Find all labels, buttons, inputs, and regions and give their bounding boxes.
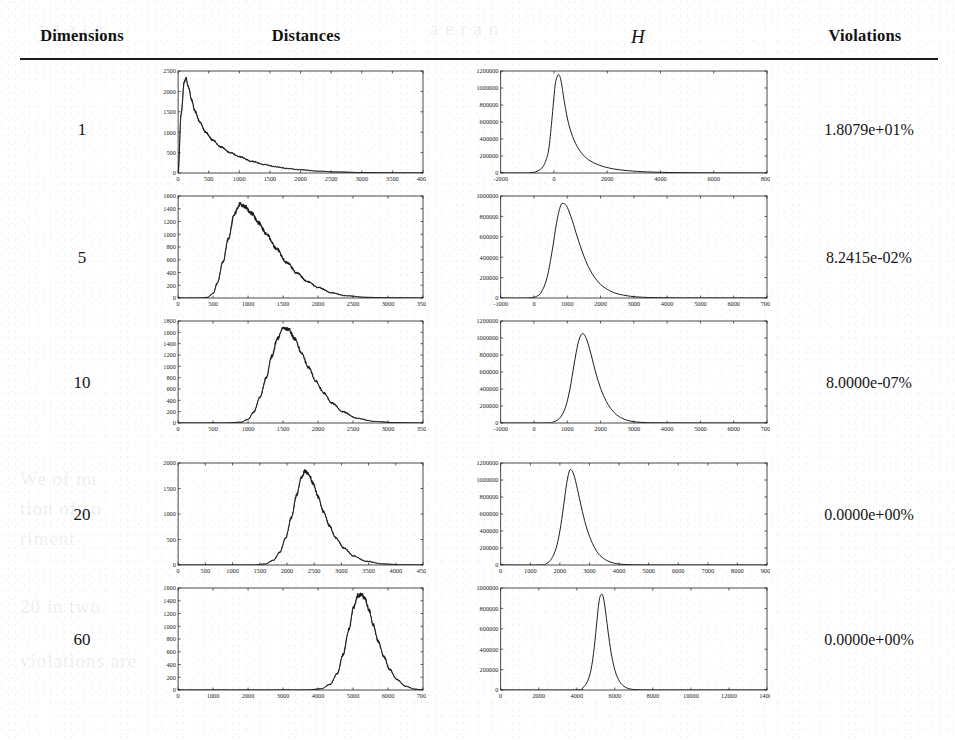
svg-text:2500: 2500	[308, 567, 321, 574]
svg-text:200000: 200000	[480, 402, 499, 409]
dimension-value: 60	[22, 630, 142, 650]
svg-text:8000: 8000	[731, 567, 744, 574]
svg-text:3000: 3000	[628, 425, 641, 432]
svg-text:3000: 3000	[277, 692, 290, 699]
svg-text:6000: 6000	[727, 425, 740, 432]
svg-text:200: 200	[166, 282, 175, 289]
dimension-value: 1	[22, 120, 142, 140]
svg-text:600000: 600000	[480, 118, 499, 125]
svg-text:1200000: 1200000	[476, 67, 498, 74]
svg-text:1000: 1000	[207, 692, 220, 699]
svg-text:1500: 1500	[277, 425, 290, 432]
svg-text:500: 500	[166, 149, 175, 156]
svg-text:1800: 1800	[163, 317, 176, 324]
svg-text:0: 0	[177, 425, 180, 432]
svg-text:2000: 2000	[294, 175, 307, 182]
svg-text:1000000: 1000000	[476, 584, 498, 591]
svg-text:1000: 1000	[242, 300, 255, 307]
svg-text:500: 500	[208, 425, 217, 432]
svg-text:200: 200	[166, 408, 175, 415]
svg-text:7000: 7000	[761, 425, 770, 432]
svg-text:0: 0	[173, 169, 176, 176]
svg-text:6000: 6000	[672, 567, 685, 574]
svg-text:0: 0	[552, 175, 555, 182]
svg-text:200000: 200000	[480, 152, 499, 159]
dimension-value: 20	[22, 505, 142, 525]
svg-text:2000: 2000	[594, 425, 607, 432]
svg-text:3500: 3500	[362, 567, 375, 574]
table-row: 6001000200030004000500060007000020040060…	[0, 583, 955, 708]
svg-text:1000000: 1000000	[476, 334, 498, 341]
svg-text:6000: 6000	[609, 692, 622, 699]
svg-text:200000: 200000	[480, 274, 499, 281]
svg-text:2500: 2500	[347, 300, 360, 307]
svg-text:600000: 600000	[480, 368, 499, 375]
svg-text:600000: 600000	[480, 233, 499, 240]
svg-text:7000: 7000	[761, 300, 770, 307]
svg-text:1600: 1600	[163, 329, 176, 336]
svg-text:1500: 1500	[277, 300, 290, 307]
svg-text:1600: 1600	[163, 584, 176, 591]
svg-text:2000: 2000	[163, 88, 176, 95]
svg-text:500: 500	[208, 300, 217, 307]
svg-text:9000: 9000	[761, 567, 770, 574]
svg-text:600000: 600000	[480, 510, 499, 517]
h-chart: 0200040006000800010000120001400002000004…	[470, 583, 770, 701]
h-chart: -200002000400060008000020000040000060000…	[470, 66, 770, 184]
svg-text:3500: 3500	[386, 175, 399, 182]
svg-text:0: 0	[173, 686, 176, 693]
svg-text:7000: 7000	[417, 692, 426, 699]
svg-text:2000: 2000	[312, 300, 325, 307]
svg-text:6000: 6000	[707, 175, 720, 182]
svg-text:1500: 1500	[163, 485, 176, 492]
svg-text:2000: 2000	[312, 425, 325, 432]
svg-text:2000: 2000	[554, 567, 567, 574]
table-row: 2005001000150020002500300035004000450005…	[0, 458, 955, 583]
svg-text:3000: 3000	[335, 567, 348, 574]
svg-text:1000000: 1000000	[476, 84, 498, 91]
svg-text:0: 0	[495, 561, 498, 568]
distances-chart: 0500100015002000250030003500020040060080…	[158, 316, 426, 434]
svg-text:8000: 8000	[761, 175, 770, 182]
svg-text:3000: 3000	[628, 300, 641, 307]
svg-text:0: 0	[532, 425, 535, 432]
svg-text:1400: 1400	[163, 340, 176, 347]
svg-text:400: 400	[166, 661, 175, 668]
svg-text:1200: 1200	[163, 218, 176, 225]
svg-text:400000: 400000	[480, 135, 499, 142]
svg-text:500: 500	[201, 567, 210, 574]
header-rule	[20, 58, 938, 60]
svg-text:600: 600	[166, 385, 175, 392]
svg-text:800: 800	[166, 635, 175, 642]
svg-text:0: 0	[495, 294, 498, 301]
svg-text:1000: 1000	[524, 567, 537, 574]
table-row: 1005001000150020002500300035000200400600…	[0, 316, 955, 441]
svg-text:1200000: 1200000	[476, 317, 498, 324]
column-header-h: H	[608, 26, 668, 48]
svg-text:1000: 1000	[561, 425, 574, 432]
svg-text:6000: 6000	[727, 300, 740, 307]
svg-text:200: 200	[166, 674, 175, 681]
svg-text:1000: 1000	[163, 231, 176, 238]
svg-text:1500: 1500	[264, 175, 277, 182]
column-header-distances: Distances	[216, 26, 396, 46]
svg-text:1000: 1000	[242, 425, 255, 432]
svg-text:0: 0	[495, 686, 498, 693]
svg-text:4500: 4500	[417, 567, 426, 574]
svg-text:800000: 800000	[480, 493, 499, 500]
svg-text:2500: 2500	[163, 67, 176, 74]
svg-text:14000: 14000	[759, 692, 770, 699]
column-header-violations: Violations	[790, 26, 940, 46]
svg-text:200000: 200000	[480, 666, 499, 673]
svg-text:0: 0	[532, 300, 535, 307]
svg-text:1500: 1500	[253, 567, 266, 574]
svg-text:6000: 6000	[382, 692, 395, 699]
column-header-dimensions: Dimensions	[18, 26, 146, 46]
svg-text:2000: 2000	[281, 567, 294, 574]
svg-text:4000: 4000	[312, 692, 325, 699]
svg-text:0: 0	[495, 169, 498, 176]
svg-text:4000: 4000	[417, 175, 426, 182]
svg-text:500: 500	[166, 536, 175, 543]
svg-text:0: 0	[177, 300, 180, 307]
svg-text:3000: 3000	[382, 425, 395, 432]
